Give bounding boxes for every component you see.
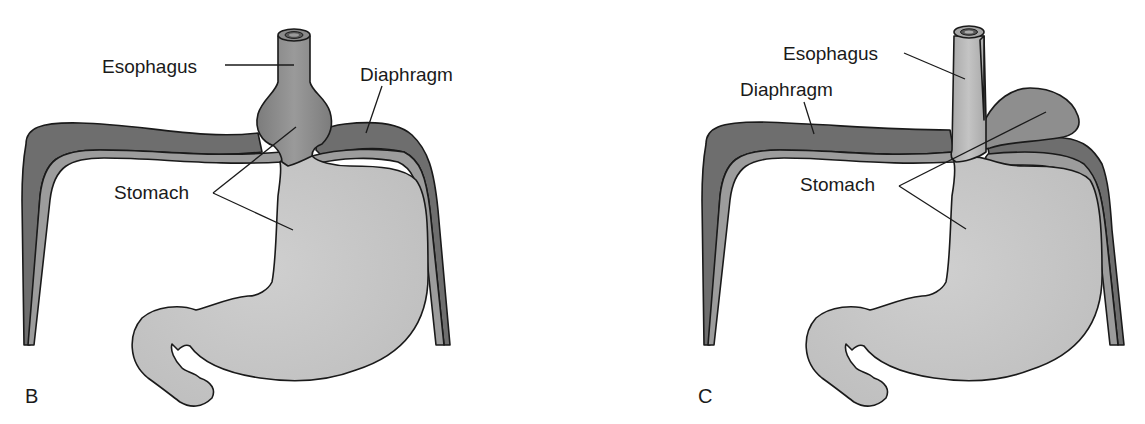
label-esophagus-b: Esophagus — [102, 56, 197, 77]
panel-letter-c: C — [698, 385, 712, 407]
label-stomach-b: Stomach — [114, 182, 189, 203]
label-stomach-c: Stomach — [800, 174, 875, 195]
esophagus-b — [257, 29, 332, 166]
label-diaphragm-b: Diaphragm — [360, 64, 453, 85]
label-diaphragm-c: Diaphragm — [740, 79, 833, 100]
esophagus-c — [951, 26, 986, 162]
panel-c: Esophagus Diaphragm Stomach C — [698, 26, 1124, 407]
label-esophagus-c: Esophagus — [783, 43, 878, 64]
panel-b: Esophagus Diaphragm Stomach B — [22, 29, 453, 407]
panel-letter-b: B — [25, 385, 38, 407]
hiatal-hernia-figure: Esophagus Diaphragm Stomach B — [0, 0, 1145, 424]
